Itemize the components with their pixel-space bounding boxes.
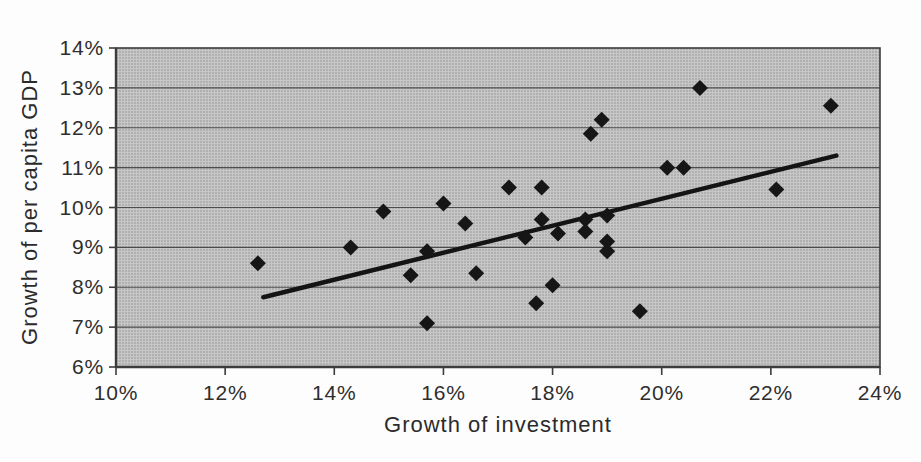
trendline (263, 156, 836, 298)
data-point (577, 223, 593, 239)
data-point (403, 267, 419, 283)
data-point (501, 180, 517, 196)
data-point (659, 160, 675, 176)
x-tick-label: 18% (530, 381, 574, 404)
data-point (632, 303, 648, 319)
y-tick-label: 10% (60, 196, 104, 219)
y-tick-label: 6% (72, 355, 104, 378)
y-tick-label: 14% (60, 36, 104, 59)
y-tick-label: 7% (72, 315, 104, 338)
y-tick-label: 13% (60, 76, 104, 99)
scatter-chart-figure: 6%7%8%9%10%11%12%13%14%10%12%14%16%18%20… (0, 0, 921, 462)
data-point (419, 315, 435, 331)
y-tick-label: 12% (60, 116, 104, 139)
y-tick-label: 9% (72, 235, 104, 258)
x-tick-label: 10% (94, 381, 138, 404)
data-point (692, 80, 708, 96)
y-tick-label: 8% (72, 275, 104, 298)
data-point (468, 265, 484, 281)
y-tick-label: 11% (61, 156, 104, 179)
x-tick-label: 22% (749, 381, 793, 404)
data-point (343, 239, 359, 255)
data-point (594, 112, 610, 128)
data-point (534, 180, 550, 196)
data-point (768, 182, 784, 198)
data-point (528, 295, 544, 311)
x-tick-label: 12% (203, 381, 247, 404)
x-tick-label: 14% (312, 381, 356, 404)
data-point (676, 160, 692, 176)
chart-canvas: 6%7%8%9%10%11%12%13%14%10%12%14%16%18%20… (0, 0, 921, 462)
data-point (599, 243, 615, 259)
x-tick-label: 16% (421, 381, 465, 404)
data-point (435, 196, 451, 212)
data-point (457, 215, 473, 231)
data-point (250, 255, 266, 271)
data-point (823, 98, 839, 114)
data-point (545, 277, 561, 293)
y-axis-title: Growth of per capita GDP (17, 69, 43, 345)
x-axis-title: Growth of investment (116, 412, 880, 438)
x-tick-label: 20% (639, 381, 683, 404)
x-tick-label: 24% (858, 381, 902, 404)
data-point (375, 203, 391, 219)
